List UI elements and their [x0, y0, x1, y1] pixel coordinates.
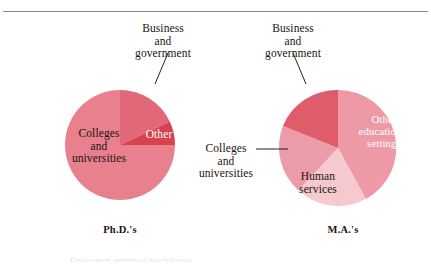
ma-label-colleges-line-1: Colleges [196, 142, 256, 155]
ma-label-business-line-2: and [238, 35, 348, 48]
ma-label-business-and-government: Business and government [238, 22, 348, 60]
phd-label-business-and-government: Business and government [108, 22, 218, 60]
ma-label-business-line-1: Business [238, 22, 348, 35]
partial-caption-bottom: Employment settings of psychologists [70, 256, 255, 262]
ma-label-human-services: Human services [284, 170, 352, 195]
ma-label-colleges-line-3: universities [190, 167, 262, 180]
ma-label-other-line-3: settings [342, 138, 426, 150]
figure-container: Business and government Colleges and uni… [0, 0, 431, 265]
phd-label-colleges-line-3: universities [45, 152, 153, 165]
ma-label-colleges-line-2: and [196, 155, 256, 168]
phd-caption: Ph.D.'s [85, 224, 155, 237]
phd-label-business-line-1: Business [108, 22, 218, 35]
phd-label-colleges-line-2: and [45, 140, 153, 153]
ma-label-business-line-3: government [238, 47, 348, 60]
ma-label-other-line-2: educational [342, 126, 426, 138]
ma-caption: M.A.'s [308, 224, 378, 237]
ma-label-human-line-1: Human [284, 170, 352, 183]
phd-label-business-line-2: and [108, 35, 218, 48]
ma-label-human-line-2: services [284, 183, 352, 196]
phd-label-business-line-3: government [108, 47, 218, 60]
ma-label-colleges-and-universities: Colleges and universities [196, 142, 256, 180]
ma-label-other-educational-settings: Other educational settings [342, 114, 426, 149]
phd-label-other: Other [133, 128, 185, 141]
